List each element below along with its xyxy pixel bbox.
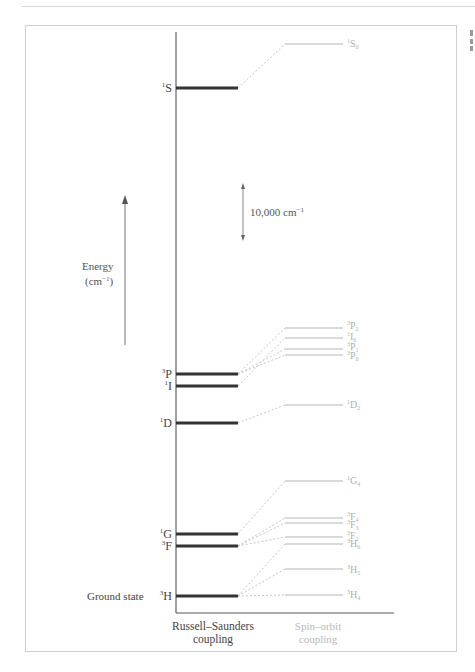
connector-line [238,338,285,386]
rs-term-label: 1S [162,81,172,95]
energy-unit-label: (cm−1) [85,275,114,288]
connector-line [238,44,285,88]
connector-line [238,355,285,374]
arrow-up-icon [122,195,128,204]
scale-bar-label: 10,000 cm−1 [250,206,304,218]
arrow-down-icon [241,235,245,241]
so-column-label-line2: coupling [299,633,338,645]
rs-column-label: Russell–Saunders [172,620,254,632]
rs-term-label: 1D [160,416,173,430]
arrow-up-icon [241,183,245,189]
so-level-label: 1G4 [347,475,360,487]
so-level-label: 1S0 [347,38,359,50]
rs-term-label: 1I [165,379,173,393]
so-column-label: Spin–orbit [295,620,341,632]
so-level-label: 3H5 [347,564,360,576]
rs-column-label-line2: coupling [193,633,233,646]
connector-line [238,523,285,546]
energy-level-diagram: 1S3P1I1D1G3F3H1S03P21I63P13P01D21G43F43F… [0,0,475,672]
rs-term-label: 3H [160,589,173,603]
connector-line [238,328,285,374]
so-level-label: 1D2 [347,399,360,411]
energy-label: Energy [82,260,114,272]
connector-line [238,405,285,423]
connector-line [238,518,285,546]
connector-line [238,569,285,596]
connector-line [238,595,285,596]
so-level-label: 3H4 [347,589,360,601]
connector-line [238,544,285,596]
rs-term-label: 3F [162,539,173,553]
ground-state-label: Ground state [87,590,144,602]
